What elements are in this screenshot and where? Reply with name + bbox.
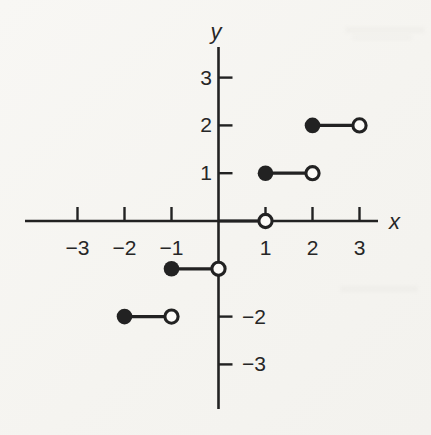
open-endpoint-marker: [212, 262, 225, 275]
x-tick-label: 2: [307, 236, 319, 259]
floor-function-graph: −3−2−1123321−2−3xy: [0, 0, 431, 435]
open-endpoint-marker: [306, 167, 319, 180]
x-tick-label: −2: [113, 236, 137, 259]
closed-endpoint-marker: [117, 309, 133, 325]
x-tick-label: −3: [66, 236, 90, 259]
y-tick-label: −3: [242, 352, 266, 375]
scan-artifact: [352, 36, 412, 39]
closed-endpoint-marker: [164, 261, 180, 277]
y-tick-label: 2: [200, 113, 212, 136]
open-endpoint-marker: [165, 310, 178, 323]
y-axis-label: y: [209, 19, 224, 44]
x-tick-label: 1: [260, 236, 272, 259]
x-tick-label: 3: [354, 236, 366, 259]
open-endpoint-marker: [259, 214, 272, 227]
open-endpoint-marker: [353, 119, 366, 132]
graph-page: −3−2−1123321−2−3xy: [0, 0, 431, 435]
y-tick-label: −2: [242, 305, 266, 328]
y-tick-label: 3: [200, 66, 212, 89]
x-tick-label: −1: [160, 236, 184, 259]
x-axis-label: x: [388, 209, 401, 234]
closed-endpoint-marker: [305, 118, 321, 134]
scan-artifact: [340, 287, 418, 291]
y-tick-label: 1: [200, 161, 212, 184]
scan-artifact: [345, 28, 425, 32]
closed-endpoint-marker: [258, 165, 274, 181]
